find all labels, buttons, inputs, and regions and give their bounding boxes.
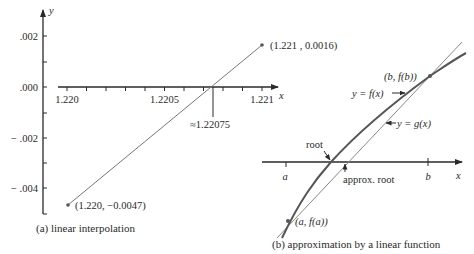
panel-a-linear-interpolation: y .002 .000 − .002 − .004 x	[11, 5, 338, 235]
panel-a-y-tick-label: .002	[20, 31, 38, 42]
panel-b-curve-f-label: y = f(x)	[351, 88, 384, 100]
panel-b-point-b-label: (b, f(b))	[384, 71, 417, 83]
panel-a-caption: (a) linear interpolation	[36, 222, 135, 235]
panel-b-root-label: root	[306, 139, 323, 150]
panel-a-y-tick-label: .000	[20, 82, 38, 93]
panel-a-x-tick-label: 1.220	[55, 94, 79, 105]
panel-a-interpolation-line	[68, 45, 262, 205]
panel-b-tick-b-label: b	[425, 171, 430, 182]
panel-b-point-a-label: (a, f(a))	[295, 216, 328, 228]
panel-b-point-a	[286, 219, 290, 223]
panel-b-point-b	[428, 74, 432, 78]
panel-b-tick-a-label: a	[282, 171, 287, 182]
panel-a-y-tick-label: − .004	[11, 183, 39, 194]
panel-a-point-right	[260, 43, 264, 47]
panel-b-linear-approximation: x a b (a, f(a)) (b, f(b)) y = f(x) y = g…	[262, 42, 466, 251]
panel-a-x-axis-label: x	[278, 90, 284, 101]
panel-a-x-tick-label: 1.221	[250, 94, 274, 105]
panel-a-point-left	[66, 203, 70, 207]
panel-b-caption: (b) approximation by a linear function	[272, 238, 441, 251]
panel-a-point-right-label: (1.221 , 0.0016)	[270, 40, 338, 52]
figure-canvas: y .002 .000 − .002 − .004 x	[0, 0, 474, 254]
panel-a-x-tick-label: 1.2205	[150, 94, 179, 105]
panel-a-y-axis-label: y	[48, 5, 54, 16]
panel-b-root-arrow	[324, 151, 330, 160]
panel-b-x-axis-label: x	[455, 170, 461, 181]
panel-a-point-left-label: (1.220, −0.0047)	[75, 200, 146, 212]
panel-a-root-label: ≈1.22075	[190, 119, 230, 130]
panel-a-y-tick-label: − .002	[11, 133, 38, 144]
panel-b-approx-root-label: approx. root	[343, 174, 394, 185]
panel-b-line-g	[277, 42, 462, 238]
panel-b-line-g-label: y = g(x)	[396, 118, 431, 130]
